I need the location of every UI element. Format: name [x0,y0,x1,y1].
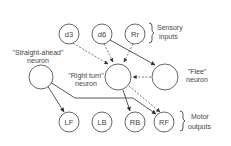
svg-text:"Straight-ahead": "Straight-ahead" [13,49,64,57]
svg-text:neuron: neuron [186,76,208,83]
neuron-flee: "Flee" neuron [152,64,208,90]
neural-circuit-diagram: d3 d6 Rr Sensory inputs "Straight-ahead"… [0,0,231,146]
svg-text:"Right turn": "Right turn" [68,72,104,80]
edge-rightturn-rb [123,90,130,111]
edge-d3-rightturn [73,43,108,64]
sensory-label-line2: inputs [159,33,178,41]
motor-label-line2: outputs [188,123,211,131]
svg-text:RB: RB [130,118,140,127]
node-rb: RB [125,112,145,132]
svg-text:LB: LB [97,118,106,127]
svg-text:LF: LF [65,118,74,127]
node-lb: LB [92,112,112,132]
svg-text:neuron: neuron [75,80,97,87]
motor-outputs: LF LB RB RF [59,112,174,132]
svg-text:Rr: Rr [131,30,139,39]
svg-text:d3: d3 [65,30,73,39]
svg-text:RF: RF [159,118,169,127]
svg-text:"Flee": "Flee" [188,68,207,75]
edge-d6-rightturn [104,44,113,62]
svg-text:d6: d6 [98,30,106,39]
edge-straight-rf [50,82,156,114]
node-lf: LF [59,112,79,132]
node-d6: d6 [92,24,112,44]
sensory-inputs: d3 d6 Rr [59,24,145,44]
motor-brace-icon [180,111,185,131]
svg-text:neuron: neuron [27,57,49,64]
sensory-label-line1: Sensory [157,24,183,32]
neuron-right-turn: "Right turn" neuron [68,64,131,90]
node-d3: d3 [59,24,79,44]
edge-rr-rightturn [124,44,133,62]
neuron-straight-ahead: "Straight-ahead" neuron [13,49,64,89]
motor-label-line1: Motor [191,113,210,120]
sensory-brace-icon [149,23,154,43]
node-rf: RF [154,112,174,132]
node-rr: Rr [125,24,145,44]
